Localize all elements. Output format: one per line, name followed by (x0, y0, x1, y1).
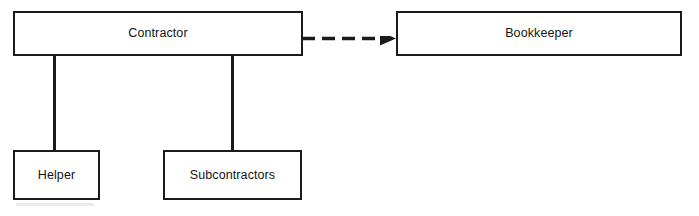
node-subcontractors[interactable]: Subcontractors (163, 150, 302, 200)
node-helper-label: Helper (38, 169, 75, 182)
node-bookkeeper[interactable]: Bookkeeper (396, 11, 682, 56)
node-bookkeeper-label: Bookkeeper (505, 27, 573, 40)
edge-contractor-bookkeeper (302, 36, 398, 50)
class-diagram-canvas: Contractor Bookkeeper Helper Subcontract… (0, 0, 699, 216)
scan-artifact-smudge (16, 203, 94, 206)
node-subcontractors-label: Subcontractors (190, 169, 275, 182)
edge-contractor-subcontractors (231, 55, 234, 151)
dashed-arrow-icon (302, 36, 398, 50)
node-contractor-label: Contractor (128, 27, 187, 40)
node-helper[interactable]: Helper (13, 150, 100, 200)
node-contractor[interactable]: Contractor (13, 11, 303, 56)
edge-contractor-helper (53, 55, 56, 151)
